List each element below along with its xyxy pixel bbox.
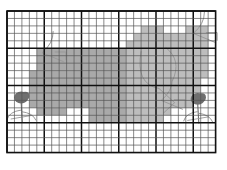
filled-block-head-top-left xyxy=(141,26,163,33)
pattern-canvas xyxy=(0,0,227,170)
filled-block-head-upper xyxy=(126,41,208,78)
filled-block-chin xyxy=(126,115,163,122)
cross-stitch-chart xyxy=(0,0,227,170)
